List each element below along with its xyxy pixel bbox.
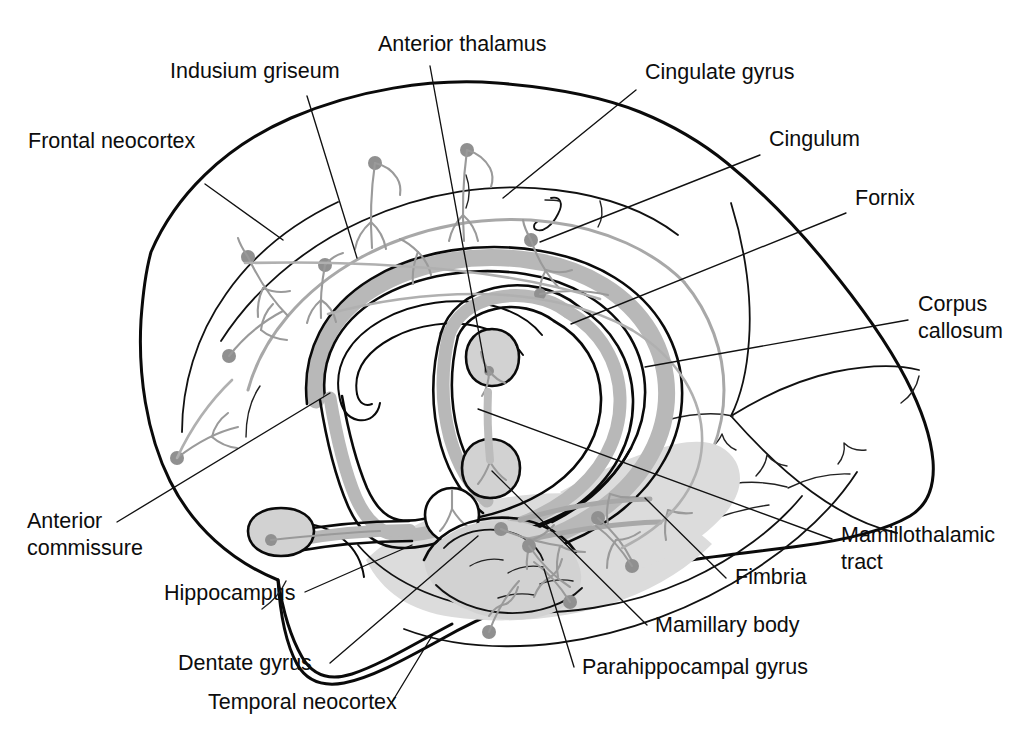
label-anterior-thalamus: Anterior thalamus: [378, 32, 547, 56]
label-parahippocampal-gyrus: Parahippocampal gyrus: [582, 655, 808, 679]
figure-canvas: Frontal neocortexIndusium griseumAnterio…: [0, 0, 1018, 736]
leader-corpus-callosum: [645, 320, 908, 367]
label-anterior-commissure-l1: Anterior: [27, 509, 102, 533]
label-mamillary-body: Mamillary body: [655, 613, 800, 637]
mamillothalamic-tract-band: [488, 392, 490, 460]
label-mamillothalamic-l1: Mamillothalamic: [841, 523, 995, 547]
label-frontal-neocortex: Frontal neocortex: [28, 129, 196, 153]
label-temporal-neocortex: Temporal neocortex: [208, 690, 397, 714]
leader-indusium-griseum: [307, 96, 357, 258]
limbic-system-diagram: Frontal neocortexIndusium griseumAnterio…: [0, 0, 1018, 736]
anterior-thalamus-body: [466, 329, 519, 396]
anterior-commissure-oval: [248, 396, 450, 556]
leader-cingulate-gyrus: [503, 90, 636, 198]
label-corpus-callosum-l2: callosum: [918, 319, 1003, 343]
label-cingulate-gyrus: Cingulate gyrus: [645, 60, 794, 84]
leader-frontal-neocortex: [205, 184, 283, 240]
label-anterior-commissure-l2: commissure: [27, 536, 143, 560]
leader-fornix: [571, 213, 846, 324]
label-fornix: Fornix: [855, 186, 915, 210]
label-hippocampus: Hippocampus: [164, 581, 295, 605]
label-cingulum: Cingulum: [769, 127, 860, 151]
label-corpus-callosum-l1: Corpus: [918, 292, 987, 316]
label-indusium-griseum: Indusium griseum: [170, 59, 340, 83]
label-fimbria: Fimbria: [735, 565, 807, 589]
label-mamillothalamic-l2: tract: [841, 550, 883, 574]
leader-cingulum: [540, 155, 760, 242]
leader-anterior-commissure: [117, 393, 330, 522]
label-dentate-gyrus: Dentate gyrus: [178, 651, 312, 675]
